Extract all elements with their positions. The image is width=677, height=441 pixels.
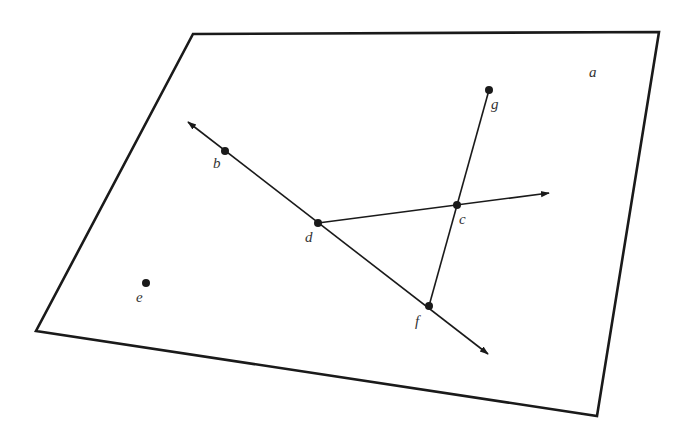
point-label-e: e	[136, 289, 143, 305]
geometry-diagram: a bcdefg	[0, 0, 677, 441]
point-label-c: c	[459, 211, 466, 227]
segment-gf	[429, 90, 489, 306]
line-bdf	[188, 122, 488, 354]
point-g	[485, 86, 493, 94]
point-b	[221, 147, 229, 155]
point-label-b: b	[213, 155, 221, 171]
point-label-d: d	[305, 229, 313, 245]
points-group	[142, 86, 493, 310]
point-c	[453, 201, 461, 209]
ray-dc	[318, 193, 549, 223]
point-label-g: g	[491, 96, 499, 112]
plane-label-a: a	[589, 64, 597, 80]
point-e	[142, 279, 150, 287]
point-d	[314, 219, 322, 227]
lines-group	[188, 90, 549, 354]
point-label-f: f	[415, 313, 421, 329]
point-f	[425, 302, 433, 310]
plane-a	[36, 32, 659, 416]
